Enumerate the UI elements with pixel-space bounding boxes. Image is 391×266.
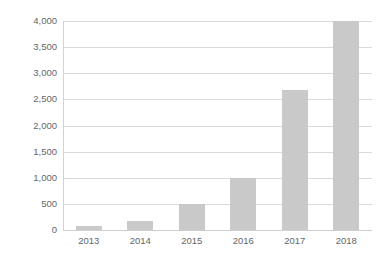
x-axis-tick-label: 2018 — [321, 236, 373, 246]
bar-slot — [127, 21, 153, 230]
bar-slot — [230, 21, 256, 230]
bar[interactable] — [179, 204, 205, 230]
bar[interactable] — [230, 178, 256, 230]
y-axis-tick-label: 2,500 — [0, 94, 65, 104]
y-axis-tick-label: 4,000 — [0, 16, 65, 26]
x-axis-tick-label: 2016 — [218, 236, 270, 246]
x-axis-tick-label: 2013 — [63, 236, 115, 246]
bar-slot — [282, 21, 308, 230]
y-axis-tick-label: 500 — [0, 199, 65, 209]
y-axis-tick-label: 1,500 — [0, 147, 65, 157]
bar[interactable] — [76, 226, 102, 230]
gridline — [63, 230, 372, 231]
y-axis-tick-label: 3,000 — [0, 68, 65, 78]
bar-slot — [76, 21, 102, 230]
bar[interactable] — [333, 21, 359, 230]
bar-slot — [333, 21, 359, 230]
bar-chart: 05001,0001,5002,0002,5003,0003,5004,000 … — [0, 0, 391, 266]
bars-group — [63, 21, 372, 230]
x-axis-tick-label: 2017 — [269, 236, 321, 246]
y-axis-tick-label: 2,000 — [0, 121, 65, 131]
y-axis-tick-label: 0 — [0, 225, 65, 235]
bar[interactable] — [282, 90, 308, 230]
bar[interactable] — [127, 221, 153, 230]
x-axis-tick-label: 2014 — [115, 236, 167, 246]
bar-slot — [179, 21, 205, 230]
y-axis-tick-label: 1,000 — [0, 173, 65, 183]
x-axis-tick-label: 2015 — [166, 236, 218, 246]
y-axis-tick-label: 3,500 — [0, 42, 65, 52]
x-axis-tick-labels: 201320142015201620172018 — [63, 236, 372, 256]
